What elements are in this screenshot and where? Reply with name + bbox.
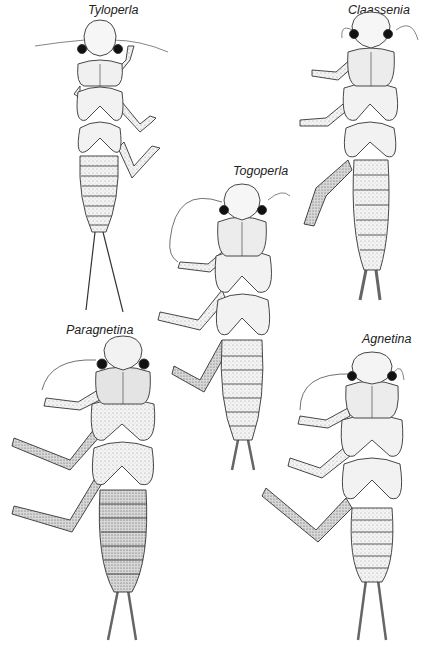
specimen-togoperla: [158, 184, 290, 470]
specimen-agnetina: [262, 352, 404, 640]
specimen-drawings: [0, 0, 434, 650]
stonefly-nymph-plate: Tyloperla Claassenia Togoperla Paragneti…: [0, 0, 434, 650]
specimen-tyloperla: [35, 20, 168, 312]
specimen-claassenia: [300, 12, 418, 300]
specimen-paragnetina: [12, 336, 155, 640]
